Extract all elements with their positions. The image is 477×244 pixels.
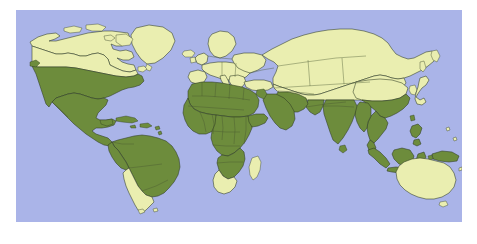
world-map-svg: [16, 10, 462, 222]
region-ireland: [190, 57, 196, 63]
region-mongolia-northern-china: [353, 79, 408, 101]
screenshot-root: [0, 0, 477, 244]
region-taiwan: [410, 115, 415, 121]
world-map-frame: [16, 10, 462, 222]
